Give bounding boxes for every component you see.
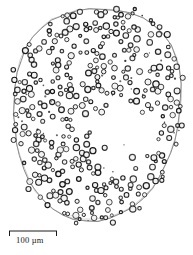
- scale-bar-label: 100 µm: [16, 236, 44, 245]
- micrograph-canvas: [0, 0, 193, 255]
- micrograph-figure: 100 µm: [0, 0, 193, 255]
